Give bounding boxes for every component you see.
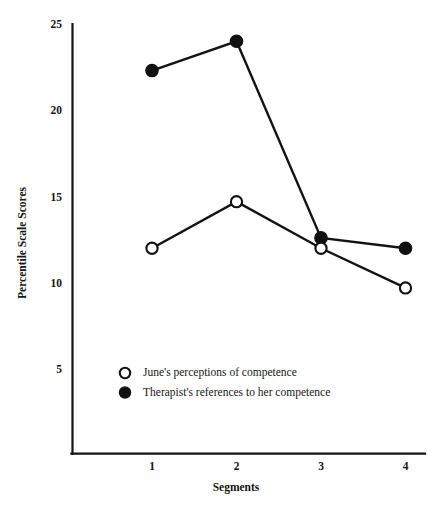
data-point-open-circle	[146, 243, 157, 254]
chart-legend: June's perceptions of competence Therapi…	[119, 366, 330, 399]
legend-label-therapist-references: Therapist's references to her competence	[143, 386, 330, 399]
x-tick-label: 2	[234, 460, 240, 472]
y-tick-label: 25	[51, 18, 63, 30]
chart-figure: 25 20 15 10 5 Percentile Scale Scores 1 …	[0, 0, 432, 508]
data-point-filled-circle	[230, 35, 242, 47]
data-point-open-circle	[400, 282, 411, 293]
series-line-june-perceptions	[152, 202, 406, 288]
y-tick-label: 5	[56, 363, 62, 375]
x-axis-tick-labels: 1 2 3 4	[149, 460, 409, 472]
y-tick-label: 20	[51, 104, 63, 116]
legend-marker-open-circle-icon	[120, 368, 130, 378]
data-point-filled-circle	[146, 64, 158, 76]
y-tick-label: 10	[51, 277, 63, 289]
percentile-scale-scores-line-chart: 25 20 15 10 5 Percentile Scale Scores 1 …	[0, 0, 432, 508]
data-point-open-circle	[315, 243, 326, 254]
x-axis-title: Segments	[213, 481, 260, 494]
x-tick-label: 1	[149, 460, 155, 472]
data-point-open-circle	[231, 196, 242, 207]
y-axis-title: Percentile Scale Scores	[16, 186, 28, 299]
x-tick-label: 3	[318, 460, 324, 472]
series-line-therapist-references	[152, 41, 406, 248]
y-axis-tick-labels: 25 20 15 10 5	[51, 18, 63, 375]
data-point-filled-circle	[399, 242, 411, 254]
legend-marker-filled-circle-icon	[119, 387, 130, 398]
y-tick-label: 15	[51, 191, 63, 203]
series-markers-therapist-references	[146, 35, 412, 254]
x-tick-label: 4	[403, 460, 409, 472]
legend-label-june-perceptions: June's perceptions of competence	[143, 366, 297, 379]
